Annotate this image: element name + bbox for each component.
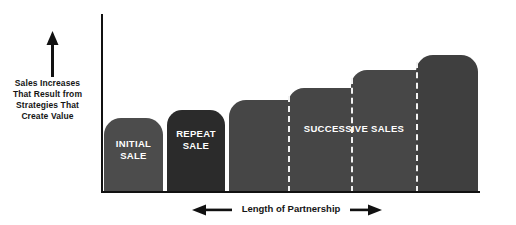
bar-divider-3 <box>416 62 418 192</box>
y-axis-caption: Sales Increases That Result from Strateg… <box>0 78 95 122</box>
y-axis-up-arrow-icon <box>44 31 61 77</box>
bar-label-repeat-sale-line-1: REPEAT <box>167 128 225 140</box>
y-caption-line-3: Strategies That <box>0 100 95 111</box>
bar-label-successive-sales: SUCCESSIVE SALES <box>292 123 416 134</box>
bar-successive-sale-2 <box>288 88 354 192</box>
bar-divider-2 <box>351 78 353 192</box>
bar-successive-sale-4 <box>416 55 478 192</box>
bar-divider-1 <box>288 96 290 192</box>
bar-label-initial-sale-line-1: INITIAL <box>104 138 163 150</box>
chart-canvas: Sales Increases That Result from Strateg… <box>0 0 516 225</box>
bar-label-repeat-sale: REPEAT SALE <box>167 128 225 152</box>
y-caption-line-1: Sales Increases <box>0 78 95 89</box>
bar-label-initial-sale: INITIAL SALE <box>104 138 163 162</box>
y-caption-line-4: Create Value <box>0 111 95 122</box>
x-axis-caption: Length of Partnership <box>236 203 346 214</box>
x-axis-baseline <box>101 191 480 193</box>
y-caption-line-2: That Result from <box>0 89 95 100</box>
bar-successive-sale-1 <box>229 100 291 192</box>
bar-label-repeat-sale-line-2: SALE <box>167 140 225 152</box>
bar-label-initial-sale-line-2: SALE <box>104 150 163 162</box>
y-axis-line <box>101 14 103 192</box>
